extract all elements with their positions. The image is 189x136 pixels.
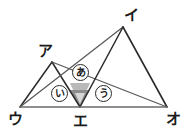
segment-i-o bbox=[123, 27, 167, 107]
angle-label-u: う bbox=[95, 85, 112, 102]
vertex-label-u: ウ bbox=[8, 112, 23, 127]
diagram-canvas: ア イ ウ エ オ あ い う bbox=[0, 0, 189, 136]
segment-a-o bbox=[52, 62, 167, 107]
vertex-label-a: ア bbox=[38, 44, 53, 59]
vertex-label-e: エ bbox=[73, 114, 88, 129]
segment-group bbox=[20, 27, 167, 107]
geometry-figure bbox=[0, 0, 189, 136]
vertex-label-o: オ bbox=[166, 112, 181, 127]
angle-label-a: あ bbox=[72, 64, 89, 81]
vertex-label-i: イ bbox=[124, 8, 139, 23]
angle-label-i: い bbox=[51, 85, 68, 102]
segment-u-a bbox=[20, 62, 52, 107]
